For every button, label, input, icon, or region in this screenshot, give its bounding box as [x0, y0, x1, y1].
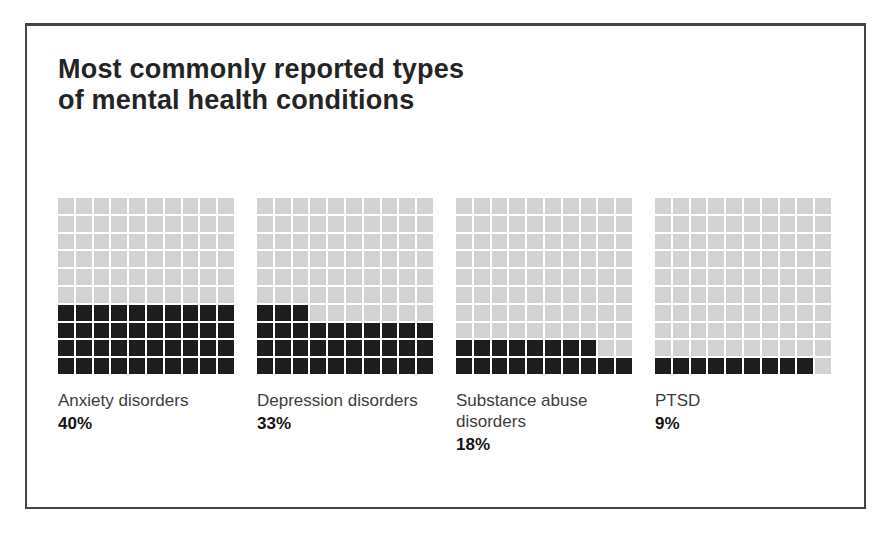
waffle-cell: [691, 340, 707, 356]
waffle-cell: [726, 340, 742, 356]
waffle-cell: [218, 287, 234, 303]
waffle-cell: [616, 269, 632, 285]
waffle-cell: [708, 287, 724, 303]
waffle-cell: [616, 198, 632, 214]
waffle-cell: [509, 234, 525, 250]
waffle-cell: [762, 216, 778, 232]
waffle-cell: [780, 198, 796, 214]
waffle-cell: [673, 198, 689, 214]
waffle-cell: [129, 287, 145, 303]
waffle-cell: [673, 234, 689, 250]
waffle-cell: [257, 305, 273, 321]
waffle-value-substance-abuse-disorders: 18%: [456, 435, 632, 455]
waffle-cell: [726, 358, 742, 374]
waffle-cell: [76, 340, 92, 356]
waffle-cell: [364, 269, 380, 285]
waffle-grid-substance-abuse-disorders: [456, 198, 632, 374]
waffle-cell: [527, 287, 543, 303]
waffle-cell: [218, 358, 234, 374]
waffle-cell: [492, 358, 508, 374]
waffle-cell: [200, 198, 216, 214]
waffle-cell: [509, 358, 525, 374]
waffle-grid-ptsd: [655, 198, 831, 374]
waffle-cell: [581, 323, 597, 339]
waffle-cell: [257, 234, 273, 250]
waffle-cell: [598, 340, 614, 356]
waffle-cell: [165, 216, 181, 232]
waffle-cell: [780, 234, 796, 250]
waffle-cell: [563, 216, 579, 232]
waffle-cell: [474, 234, 490, 250]
waffle-cell: [815, 287, 831, 303]
waffle-cell: [328, 305, 344, 321]
waffle-cell: [200, 323, 216, 339]
waffle-cell: [147, 323, 163, 339]
waffle-cell: [275, 358, 291, 374]
waffle-cell: [563, 305, 579, 321]
waffle-cell: [762, 340, 778, 356]
waffle-cell: [815, 340, 831, 356]
waffle-cell: [183, 358, 199, 374]
waffle-cell: [762, 269, 778, 285]
waffle-cell: [726, 323, 742, 339]
waffle-cell: [655, 198, 671, 214]
waffle-cell: [417, 198, 433, 214]
waffle-cell: [399, 251, 415, 267]
waffle-cell: [183, 269, 199, 285]
waffle-cell: [328, 216, 344, 232]
waffle-cell: [762, 305, 778, 321]
waffle-cell: [293, 198, 309, 214]
waffle-cell: [780, 251, 796, 267]
waffle-cell: [815, 234, 831, 250]
waffle-cell: [310, 305, 326, 321]
waffle-cell: [382, 358, 398, 374]
waffle-cell: [76, 198, 92, 214]
waffle-cell: [183, 234, 199, 250]
waffle-cell: [58, 234, 74, 250]
waffle-cell: [762, 323, 778, 339]
waffle-cell: [815, 216, 831, 232]
waffle-cell: [616, 323, 632, 339]
waffle-cell: [474, 358, 490, 374]
waffle-cell: [509, 251, 525, 267]
waffle-cell: [417, 251, 433, 267]
waffle-cell: [708, 340, 724, 356]
waffle-cell: [527, 323, 543, 339]
waffle-cell: [111, 198, 127, 214]
waffle-cell: [129, 305, 145, 321]
waffle-cell: [762, 358, 778, 374]
waffle-cell: [673, 216, 689, 232]
waffle-cell: [58, 198, 74, 214]
waffle-cell: [598, 234, 614, 250]
waffle-cell: [655, 234, 671, 250]
waffle-cell: [165, 251, 181, 267]
waffle-cell: [545, 269, 561, 285]
waffle-cell: [94, 198, 110, 214]
waffle-cell: [364, 234, 380, 250]
waffle-cell: [328, 198, 344, 214]
waffle-cell: [545, 198, 561, 214]
waffle-cell: [111, 323, 127, 339]
waffle-cell: [616, 358, 632, 374]
waffle-cell: [364, 340, 380, 356]
waffle-cell: [673, 251, 689, 267]
waffle-cell: [726, 305, 742, 321]
waffle-cell: [780, 340, 796, 356]
waffle-cell: [563, 340, 579, 356]
waffle-cell: [492, 269, 508, 285]
waffle-cell: [200, 287, 216, 303]
waffle-cell: [293, 287, 309, 303]
waffle-cell: [94, 358, 110, 374]
waffle-cell: [165, 358, 181, 374]
waffle-cell: [581, 269, 597, 285]
waffle-cell: [708, 305, 724, 321]
waffle-cell: [183, 216, 199, 232]
waffle-cell: [616, 234, 632, 250]
waffle-cell: [200, 269, 216, 285]
waffle-cell: [545, 323, 561, 339]
waffle-cell: [310, 287, 326, 303]
waffle-cell: [346, 251, 362, 267]
waffle-group-substance-abuse-disorders: Substance abuse disorders18%: [456, 198, 632, 455]
waffle-cell: [563, 269, 579, 285]
waffle-cell: [456, 251, 472, 267]
